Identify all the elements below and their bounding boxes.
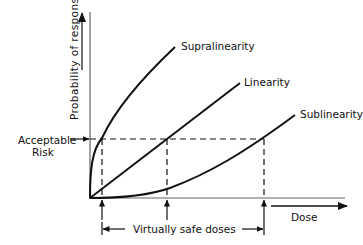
x-axis-label: Dose bbox=[291, 211, 317, 223]
supralinearity-curve bbox=[90, 47, 175, 198]
sublinearity-curve bbox=[90, 115, 295, 198]
dose-response-diagram: Probability of response Dose Supralinear… bbox=[0, 0, 363, 245]
y-axis-label: Probability of response bbox=[68, 0, 80, 120]
acceptable-risk-label: Acceptable bbox=[18, 134, 76, 146]
supralinearity-label: Supralinearity bbox=[181, 40, 255, 52]
sublinearity-label: Sublinearity bbox=[300, 108, 363, 120]
acceptable-risk-label-line2: Risk bbox=[32, 146, 55, 158]
linearity-curve bbox=[90, 83, 240, 198]
virtually-safe-doses-label: Virtually safe doses bbox=[133, 223, 236, 235]
linearity-label: Linearity bbox=[244, 76, 290, 88]
